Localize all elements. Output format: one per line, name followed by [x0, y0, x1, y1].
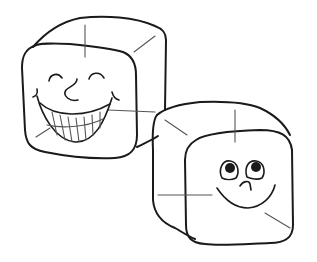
left-cube-side-edge [137, 136, 158, 147]
right-cube-left-outline [153, 115, 195, 239]
left-cube-mouth [37, 96, 112, 142]
left-cube-right-dimple [112, 92, 119, 100]
right-cube-highlight-low [265, 213, 290, 228]
left-cube-nose [65, 79, 78, 100]
left-cube-highlight-low [36, 128, 50, 137]
right-cube-right-eye [246, 161, 264, 179]
ice-cubes-illustration [0, 0, 317, 262]
left-ice-cube [22, 17, 166, 159]
left-cube-highlight-mid [108, 110, 155, 112]
left-cube-top-outline [33, 17, 166, 110]
right-cube-nose [240, 182, 251, 190]
left-cube-highlight-side [134, 36, 155, 52]
left-cube-right-eye [89, 73, 104, 79]
right-cube-front-face [185, 130, 293, 245]
left-cube-left-eye [49, 74, 62, 81]
right-cube-mouth [217, 185, 275, 208]
right-ice-cube [153, 102, 293, 245]
right-cube-left-eye [220, 161, 238, 180]
right-cube-highlight-side [165, 120, 187, 135]
